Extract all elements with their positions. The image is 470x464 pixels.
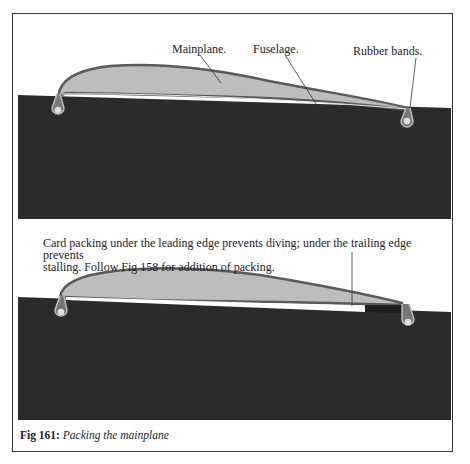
packing-note-line2: stalling. Follow Fig 158 for addition of… bbox=[43, 261, 453, 273]
figure-title: Packing the mainplane bbox=[63, 429, 169, 441]
figure-caption: Fig 161: Packing the mainplane bbox=[20, 429, 169, 441]
packing-note: Card packing under the leading edge prev… bbox=[43, 237, 453, 273]
packing-gap-block bbox=[365, 305, 402, 313]
leader-rubber-bands bbox=[410, 58, 416, 108]
label-mainplane: Mainplane. bbox=[172, 42, 226, 57]
figure-number: Fig 161: bbox=[20, 429, 60, 441]
peg-left-bottom-icon bbox=[58, 309, 65, 316]
top-fuselage bbox=[18, 95, 451, 219]
peg-right-icon bbox=[404, 118, 411, 125]
packing-note-line1: Card packing under the leading edge prev… bbox=[43, 237, 453, 261]
bottom-fuselage bbox=[18, 297, 451, 420]
label-rubber-bands: Rubber bands. bbox=[353, 44, 422, 59]
label-fuselage: Fuselage. bbox=[253, 42, 299, 57]
peg-left-icon bbox=[55, 107, 62, 114]
top-diagram bbox=[18, 55, 451, 219]
figure-illustration bbox=[0, 0, 470, 464]
bottom-diagram bbox=[18, 252, 451, 420]
peg-right-bottom-icon bbox=[405, 319, 412, 326]
